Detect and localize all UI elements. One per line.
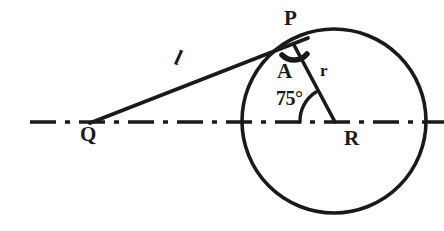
central-angle-label: 75°: [276, 88, 303, 108]
diagram-canvas: [0, 0, 444, 231]
angle-label-a: A: [277, 61, 292, 82]
geometry-diagram: P Q R A r 75° l: [0, 0, 444, 231]
point-label-q: Q: [80, 124, 96, 145]
tangent-segment-qp: [90, 38, 308, 123]
radius-label-r: r: [320, 62, 328, 79]
point-label-p: P: [284, 8, 297, 29]
point-label-r: R: [344, 128, 359, 149]
